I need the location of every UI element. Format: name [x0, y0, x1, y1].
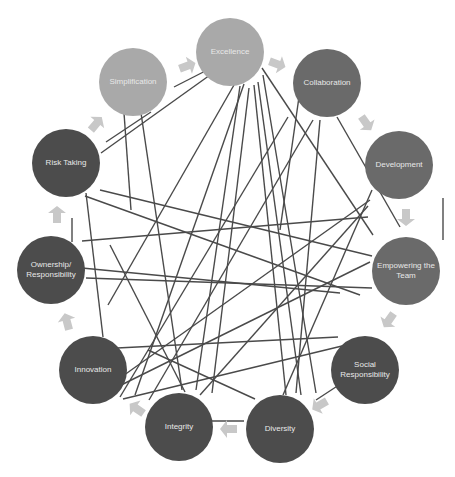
values-network-diagram: ExcellenceCollaborationDevelopmentEmpowe… — [0, 0, 455, 477]
node-label: Diversity — [261, 424, 300, 434]
arrow-icon — [266, 53, 288, 76]
node-diversity: Diversity — [246, 395, 314, 463]
arrow-icon — [124, 396, 148, 420]
arrow-icon — [84, 111, 109, 136]
arrow-icon — [56, 311, 78, 332]
node-excellence: Excellence — [196, 18, 264, 86]
node-collaboration: Collaboration — [293, 49, 361, 117]
node-label: Integrity — [161, 422, 197, 432]
node-integrity: Integrity — [145, 393, 213, 461]
node-label: Empowering the Team — [372, 261, 440, 281]
arrow-icon — [397, 209, 415, 226]
node-label: Excellence — [207, 47, 254, 57]
arrow-icon — [354, 111, 378, 135]
node-label: Ownership/ Responsibility — [17, 260, 85, 280]
arrow-icon — [176, 54, 198, 77]
node-simplification: Simplification — [99, 48, 167, 116]
node-label: Collaboration — [299, 78, 354, 88]
arrow-icon — [48, 206, 66, 223]
arrow-icon — [308, 393, 332, 417]
node-ownership: Ownership/ Responsibility — [17, 236, 85, 304]
node-label: Social Responsibility — [331, 360, 399, 380]
node-social: Social Responsibility — [331, 336, 399, 404]
arrow-icon — [220, 420, 237, 438]
node-empowering: Empowering the Team — [372, 237, 440, 305]
node-label: Simplification — [105, 77, 160, 87]
node-development: Development — [365, 131, 433, 199]
node-risk: Risk Taking — [32, 129, 100, 197]
node-label: Innovation — [71, 365, 116, 375]
node-label: Risk Taking — [42, 158, 91, 168]
node-innovation: Innovation — [59, 336, 127, 404]
arrow-icon — [376, 308, 400, 332]
node-label: Development — [371, 160, 426, 170]
